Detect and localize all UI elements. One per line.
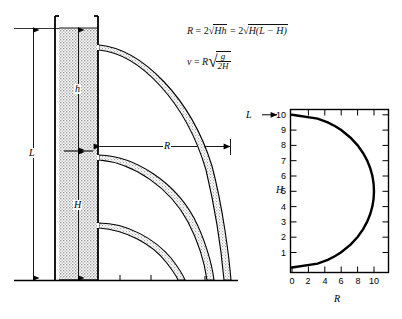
plot-xlabel: R [334, 293, 340, 304]
ytick-label-5: 5 [267, 186, 286, 196]
plot-L-annotation: L [246, 109, 252, 120]
eq-range-radicand-2: H(L − H) [248, 24, 288, 36]
plot-L-annotation-label: L [246, 109, 252, 120]
xtick-label-10: 10 [365, 276, 383, 286]
equation-velocity: v = R√ g 2H [187, 52, 231, 73]
equation-range: R = 2√Hh = 2√H(L − H) [187, 24, 288, 36]
ytick-label-9: 9 [267, 125, 286, 135]
water-jet-3 [99, 223, 185, 280]
ytick-label-10: 10 [267, 110, 286, 120]
label-L: L [28, 148, 36, 158]
eq-velocity-equals: = [194, 56, 200, 67]
jet-3-stream [99, 223, 185, 280]
figure-root: R = 2√Hh = 2√H(L − H) v = R√ g 2H L h H … [0, 0, 402, 319]
ytick-label-6: 6 [267, 171, 286, 181]
figure-canvas [0, 0, 402, 319]
ytick-label-1: 1 [267, 248, 286, 258]
eq-velocity-lhs: v [187, 56, 191, 67]
ytick-label-8: 8 [267, 140, 286, 150]
ytick-label-4: 4 [267, 202, 286, 212]
label-R-dimension: R [163, 141, 171, 151]
label-H: H [73, 200, 82, 210]
xtick-label-6: 6 [332, 276, 350, 286]
eq-velocity-fraction: g 2H [216, 51, 231, 72]
label-h: h [74, 84, 81, 94]
eq-range-equals-2: = [230, 25, 236, 36]
ytick-label-3: 3 [267, 217, 286, 227]
eq-velocity-denominator: 2H [216, 61, 231, 71]
eq-range-equals-1: = [196, 25, 202, 36]
ytick-label-7: 7 [267, 156, 286, 166]
eq-range-radicand-1: Hh [213, 24, 227, 36]
water-jet-2 [99, 155, 214, 280]
eq-velocity-numerator: g [216, 52, 231, 61]
ytick-label-2: 2 [267, 232, 286, 242]
xtick-label-2: 2 [299, 276, 317, 286]
eq-range-lhs: R [187, 25, 193, 36]
jet-2-stream [99, 155, 214, 280]
